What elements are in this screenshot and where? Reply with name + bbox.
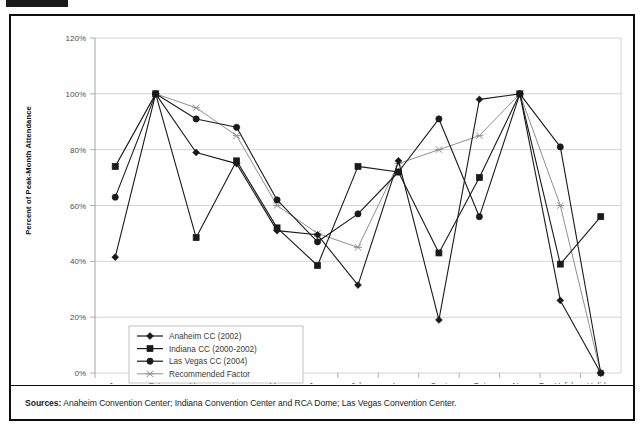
y-tick-label: 20% xyxy=(70,313,86,322)
series-marker xyxy=(436,250,442,256)
series-marker xyxy=(274,225,280,231)
figure-page: Percent of Peak-Month Attendance 0%20%40… xyxy=(0,0,644,427)
series-marker xyxy=(436,116,442,122)
series-marker xyxy=(557,144,563,150)
series-marker xyxy=(234,158,240,164)
y-tick-label: 80% xyxy=(70,146,86,155)
x-tick-label: Jan xyxy=(109,382,123,384)
series-marker xyxy=(557,261,563,267)
series-marker xyxy=(274,197,280,203)
sources-label: Sources: xyxy=(25,398,61,408)
y-axis-title: Percent of Peak-Month Attendance xyxy=(24,96,33,246)
x-tick-label: Oct xyxy=(473,382,486,384)
series-marker xyxy=(153,91,159,97)
series-marker xyxy=(355,163,361,169)
line-chart-plot: 0%20%40%60%80%100%120%JanFebMarAprMayJun… xyxy=(11,16,633,384)
x-tick-label: Aug xyxy=(391,382,406,384)
x-tick-label: Holiday xyxy=(587,382,615,384)
chart-area: Percent of Peak-Month Attendance 0%20%40… xyxy=(11,16,633,384)
y-tick-label: 0% xyxy=(74,369,86,378)
chart-legend: Anaheim CC (2002)Indiana CC (2000-2002)L… xyxy=(129,326,303,383)
y-tick-label: 40% xyxy=(70,257,86,266)
series-marker xyxy=(112,163,118,169)
legend-label-2: Las Vegas CC (2004) xyxy=(169,357,248,366)
x-tick-label: July xyxy=(351,382,366,384)
y-tick-label: 100% xyxy=(66,90,86,99)
legend-label-3: Recommended Factor xyxy=(169,370,250,379)
sources-bar: Sources: Anaheim Convention Center; Indi… xyxy=(11,385,633,419)
series-marker xyxy=(314,239,320,245)
series-marker xyxy=(598,370,604,376)
legend-marker-1 xyxy=(147,346,153,352)
series-marker xyxy=(193,116,199,122)
legend-label-0: Anaheim CC (2002) xyxy=(169,332,242,341)
series-marker xyxy=(315,263,321,269)
series-marker xyxy=(476,214,482,220)
y-tick-label: 60% xyxy=(70,202,86,211)
x-tick-label: Pre-Holiday xyxy=(539,382,583,384)
series-marker xyxy=(517,91,523,97)
corner-black-mark xyxy=(6,0,68,7)
x-tick-label: Sept xyxy=(431,382,449,384)
series-marker xyxy=(476,175,482,181)
y-tick-label: 120% xyxy=(66,34,86,43)
legend-label-1: Indiana CC (2000-2002) xyxy=(169,345,257,354)
series-marker xyxy=(193,235,199,241)
x-tick-label: June xyxy=(309,382,327,384)
series-marker xyxy=(395,169,401,175)
figure-frame: Percent of Peak-Month Attendance 0%20%40… xyxy=(9,14,635,421)
sources-note: Sources: Anaheim Convention Center; Indi… xyxy=(11,398,456,408)
x-tick-label: Nov xyxy=(513,382,528,384)
series-marker xyxy=(234,124,240,130)
legend-marker-2 xyxy=(147,358,153,364)
series-marker xyxy=(355,211,361,217)
series-marker xyxy=(598,214,604,220)
sources-value: Anaheim Convention Center; Indiana Conve… xyxy=(61,398,456,408)
series-marker xyxy=(112,194,118,200)
